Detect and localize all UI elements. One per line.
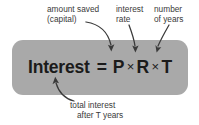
callout-rate-line2: rate [116,14,130,24]
interest-formula: Interest = P × R × T [12,40,188,95]
callout-label-years: number of years [154,4,184,25]
interest-formula-diagram: Interest = P × R × T amount saved (capit… [0,0,199,125]
callout-rate-line1: interest [116,4,143,14]
callout-years-line2: of years [154,14,184,24]
multiplication-icon: × [152,59,159,74]
formula-variable-p: P [113,57,124,78]
callout-capital-line1: amount saved [47,4,99,14]
callout-capital-line2: (capital) [47,14,77,24]
callout-label-rate: interest rate [116,4,143,25]
formula-term-interest: Interest [28,57,90,78]
formula-equals-sign: = [97,57,107,78]
callout-label-capital: amount saved (capital) [47,4,99,25]
callout-years-line1: number [154,4,182,14]
formula-variable-t: T [161,57,172,78]
multiplication-icon: × [127,59,134,74]
callout-label-total-interest: total interest after T years [70,100,123,121]
formula-variable-r: R [137,57,149,78]
callout-total-line1: total interest [70,100,115,110]
callout-total-line2: after T years [70,110,123,120]
